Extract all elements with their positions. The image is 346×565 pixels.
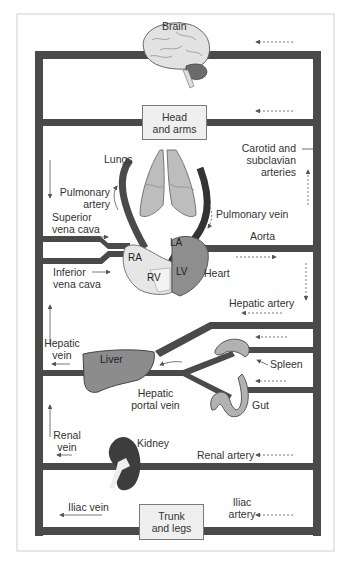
gut-label: Gut xyxy=(252,399,269,411)
brain-label: Brain xyxy=(162,20,187,32)
head-and-arms-box: Head and arms xyxy=(142,105,207,140)
iliac-artery-label: Iliac artery xyxy=(225,496,259,520)
carotid-label-line3: arteries xyxy=(241,166,296,178)
kidney-illustration xyxy=(109,437,140,490)
trunk-box-line2: and legs xyxy=(152,522,192,534)
trunk-box-line1: Trunk xyxy=(152,510,192,522)
diagram-canvas xyxy=(0,0,346,565)
liver-label: Liver xyxy=(100,353,123,365)
hepatic-vein-line2: vein xyxy=(42,349,82,361)
kidney-label: Kidney xyxy=(137,437,169,449)
spleen-label: Spleen xyxy=(270,358,303,370)
lungs-label: Lungs xyxy=(104,153,133,165)
inferior-vena-cava-label: Inferior vena cava xyxy=(53,266,101,290)
inferior-vc-line1: Inferior xyxy=(53,266,101,278)
hepatic-vein-label: Hepatic vein xyxy=(42,337,82,361)
pulmonary-artery-line1: Pulmonary xyxy=(58,186,110,198)
hepatic-portal-vein-label: Hepatic portal vein xyxy=(123,387,188,411)
hepatic-vein-line1: Hepatic xyxy=(42,337,82,349)
inferior-vc-line2: vena cava xyxy=(53,278,101,290)
hepatic-artery-label: Hepatic artery xyxy=(229,297,294,309)
superior-vena-cava-label: Superior vena cava xyxy=(52,211,100,235)
heart-label: Heart xyxy=(204,267,230,279)
pulmonary-vein-label: Pulmonary vein xyxy=(216,208,288,220)
pulmonary-artery-label: Pulmonary artery xyxy=(58,186,110,210)
head-box-line2: and arms xyxy=(153,123,197,135)
pulmonary-artery-line2: artery xyxy=(58,198,110,210)
superior-vc-line2: vena cava xyxy=(52,223,100,235)
left-ventricle-label: LV xyxy=(176,266,188,277)
hepatic-portal-line1: Hepatic xyxy=(123,387,188,399)
carotid-label-line2: subclavian xyxy=(241,154,296,166)
iliac-vein-label: Iliac vein xyxy=(68,501,109,513)
aorta-label: Aorta xyxy=(250,230,275,242)
trunk-and-legs-box: Trunk and legs xyxy=(139,504,204,540)
head-box-line1: Head xyxy=(153,111,197,123)
renal-vein-label: Renal vein xyxy=(52,429,82,453)
right-atrium-label: RA xyxy=(128,252,142,263)
iliac-artery-line1: Iliac xyxy=(225,496,259,508)
carotid-label-line1: Carotid and xyxy=(241,142,296,154)
iliac-artery-line2: artery xyxy=(225,508,259,520)
renal-vein-line1: Renal xyxy=(52,429,82,441)
left-atrium-label: LA xyxy=(170,237,182,248)
renal-artery-label: Renal artery xyxy=(197,449,254,461)
circulatory-system-diagram: Head and arms Trunk and legs Brain Lungs… xyxy=(0,0,346,565)
carotid-label: Carotid and subclavian arteries xyxy=(241,142,296,178)
hepatic-portal-line2: portal vein xyxy=(123,399,188,411)
renal-vein-line2: vein xyxy=(52,441,82,453)
superior-vc-line1: Superior xyxy=(52,211,100,223)
right-ventricle-label: RV xyxy=(147,272,161,283)
